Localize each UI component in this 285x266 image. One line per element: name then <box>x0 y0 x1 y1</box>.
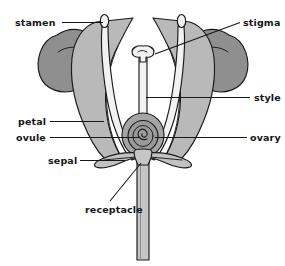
flower-diagram-svg: stamen stigma style petal ovule ovary se… <box>0 0 285 266</box>
label-stigma: stigma <box>243 17 280 28</box>
label-sepal: sepal <box>48 155 77 166</box>
label-ovule: ovule <box>16 132 46 143</box>
label-receptacle: receptacle <box>85 204 143 215</box>
label-petal: petal <box>18 116 46 127</box>
label-stamen: stamen <box>15 17 56 28</box>
style-column <box>139 58 147 120</box>
label-ovary: ovary <box>250 132 281 143</box>
flower-diagram: stamen stigma style petal ovule ovary se… <box>0 0 285 266</box>
anther-head-left <box>100 15 108 28</box>
receptacle-node <box>134 149 152 165</box>
anther-head-right <box>177 15 185 28</box>
label-style: style <box>254 92 281 103</box>
receptacle-group <box>134 149 152 165</box>
